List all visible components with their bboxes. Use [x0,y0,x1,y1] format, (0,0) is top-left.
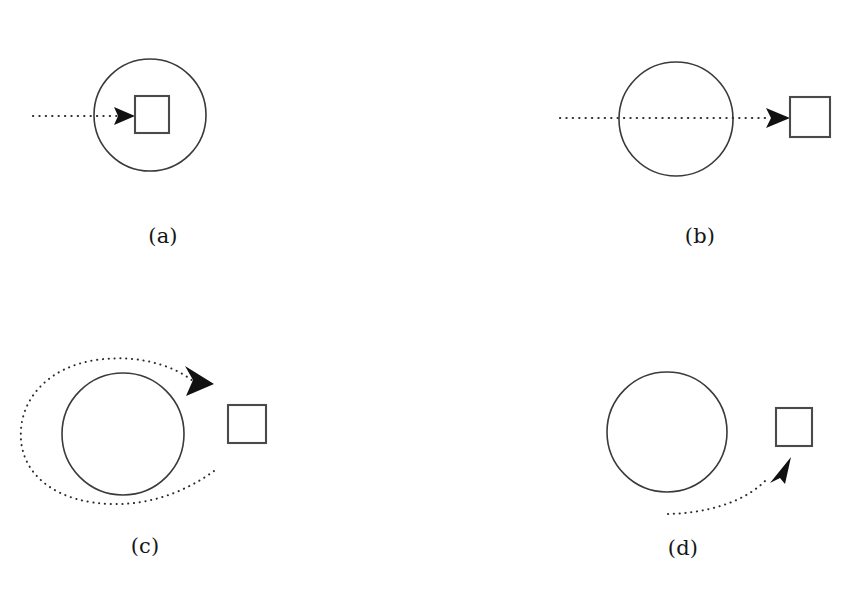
panel-d-circle [607,372,727,492]
figure-container: (a) (b) (c) [0,0,858,590]
panel-c-arrowhead [185,366,214,396]
panel-c-square [228,405,266,443]
panel-d-dotted-curve [668,478,768,514]
panel-d-square [776,408,812,446]
panel-a: (a) [33,59,206,248]
panel-b-caption: (b) [685,224,715,248]
panel-c-caption: (c) [131,534,160,558]
panel-b-arrowhead [766,108,790,128]
panel-b-circle [619,62,733,176]
panel-a-caption: (a) [148,224,178,248]
panel-d-caption: (d) [668,536,698,560]
panel-c-circle [62,373,184,495]
four-panel-diagram: (a) (b) (c) [0,0,858,590]
panel-a-square [135,96,169,133]
panel-d: (d) [607,372,812,560]
panel-b: (b) [560,62,830,248]
panel-d-arrowhead [770,457,791,484]
panel-a-circle [94,59,206,171]
panel-b-square [790,97,830,137]
panel-c-dotted-loop [21,358,214,504]
panel-c: (c) [21,358,266,558]
